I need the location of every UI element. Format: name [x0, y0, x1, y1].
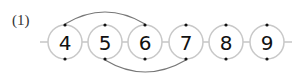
- node-dot: [63, 23, 66, 26]
- node-dot: [63, 57, 66, 60]
- node-number: 7: [180, 31, 193, 55]
- node-number: 5: [99, 31, 112, 55]
- top-arc-4-to-6: [65, 12, 145, 24]
- node-dot: [143, 23, 146, 26]
- bottom-arc-5-to-7: [105, 60, 186, 72]
- node-dot: [103, 57, 106, 60]
- node-dot: [265, 57, 268, 60]
- number-node-9: 9: [250, 23, 284, 60]
- number-chain-diagram: 456789: [0, 0, 306, 78]
- node-dot: [224, 23, 227, 26]
- node-number: 6: [139, 31, 152, 55]
- number-node-6: 6: [128, 23, 162, 60]
- number-node-8: 8: [209, 23, 243, 60]
- node-dot: [103, 23, 106, 26]
- node-dot: [224, 57, 227, 60]
- node-dot: [143, 57, 146, 60]
- node-number: 8: [220, 31, 233, 55]
- node-dot: [184, 23, 187, 26]
- node-dot: [265, 23, 268, 26]
- number-node-7: 7: [169, 23, 203, 60]
- node-dot: [184, 57, 187, 60]
- node-number: 9: [261, 31, 274, 55]
- number-node-4: 4: [48, 23, 82, 60]
- node-number: 4: [59, 31, 72, 55]
- number-node-5: 5: [88, 23, 122, 60]
